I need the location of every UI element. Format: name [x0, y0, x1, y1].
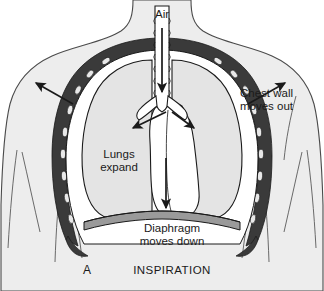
label-diaphragm-line1: Diaphragm [118, 222, 226, 235]
label-chest-wall-line2: moves out [240, 100, 320, 113]
label-diaphragm-line2: moves down [118, 235, 226, 248]
label-air: Air [139, 8, 185, 21]
inspiration-diagram: Air Chest wall moves out Lungs expand Di… [0, 0, 324, 291]
label-chest-wall: Chest wall moves out [240, 87, 320, 113]
label-chest-wall-line1: Chest wall [240, 87, 320, 100]
label-lungs-line1: Lungs [83, 148, 155, 161]
panel-letter: A [76, 264, 98, 277]
label-lungs: Lungs expand [83, 148, 155, 174]
label-diaphragm: Diaphragm moves down [118, 222, 226, 248]
figure-caption: INSPIRATION [118, 264, 226, 277]
label-lungs-line2: expand [83, 161, 155, 174]
